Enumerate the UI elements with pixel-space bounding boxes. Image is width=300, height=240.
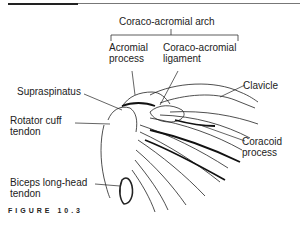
label-coracoid-process: Coracoid process [242, 136, 282, 158]
shoulder-drawing [101, 84, 258, 212]
label-supraspinatus: Supraspinatus [17, 86, 81, 97]
label-rotator-cuff-tendon: Rotator cuff tendon [10, 115, 62, 137]
leader-lines [75, 71, 245, 186]
label-clavicle: Clavicle [243, 80, 278, 91]
label-biceps-long-head-tendon: Biceps long-head tendon [10, 177, 87, 199]
label-acromial-process: Acromial process [109, 42, 148, 64]
figure-caption: FIGURE 10.3 [8, 207, 83, 214]
arch-bracket [111, 29, 238, 41]
label-coraco-acromial-ligament: Coraco-acromial ligament [163, 42, 236, 64]
